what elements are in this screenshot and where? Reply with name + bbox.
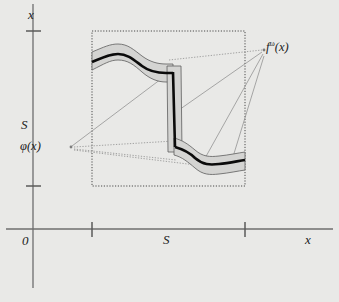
- f-argument: (x): [275, 40, 289, 54]
- phi-ray-mid: [74, 141, 174, 147]
- f-ray-middle: [176, 52, 262, 112]
- y-axis-label: x: [28, 8, 34, 21]
- phi-ray-upper: [72, 70, 173, 146]
- phi-function-label: φ(x): [20, 140, 41, 153]
- origin-label: 0: [22, 234, 29, 247]
- f-ray-lower: [204, 54, 263, 160]
- phi-anchor-dot: [70, 146, 73, 149]
- tolerance-band-lower: [174, 138, 245, 174]
- tolerance-band-upper: [92, 44, 173, 82]
- x-axis-tick-label: S: [163, 233, 170, 246]
- f-ray-right: [232, 56, 264, 160]
- y-axis-tick-label: S: [21, 118, 28, 131]
- f-omega-function-label: fω(x): [266, 40, 289, 54]
- figure-canvas: x x 0 S S φ(x) fω(x): [0, 0, 339, 302]
- x-axis-label: x: [305, 233, 311, 246]
- phi-ray-lower: [74, 149, 176, 160]
- f-anchor-dot: [263, 49, 266, 52]
- f-ray-top: [169, 50, 262, 60]
